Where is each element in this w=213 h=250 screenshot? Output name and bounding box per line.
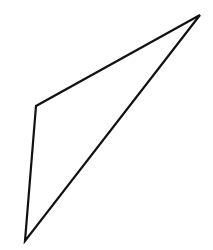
triangle-diagram — [0, 0, 213, 250]
diagram-canvas — [0, 0, 213, 250]
triangle-shape — [25, 15, 200, 241]
